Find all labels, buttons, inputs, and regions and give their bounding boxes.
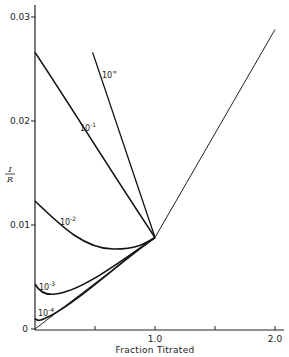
curve-ideal xyxy=(35,30,275,330)
label-10-inf: 10∞ xyxy=(102,68,117,80)
x-tick-label-2: 2.0 xyxy=(268,334,283,344)
x-axis-title: Fraction Titrated xyxy=(115,345,194,355)
svg-text:R: R xyxy=(6,175,13,184)
y-axis-title: I R xyxy=(5,165,15,184)
y-tick-label-0: 0 xyxy=(22,324,28,334)
label-10-minus-1: 10-1 xyxy=(80,121,96,133)
label-10-minus-3: 10-3 xyxy=(39,280,55,292)
label-10-minus-2: 10-2 xyxy=(60,215,76,227)
y-tick-label-1: 0.01 xyxy=(10,220,30,230)
svg-text:I: I xyxy=(7,165,12,174)
curve-10-minus-2 xyxy=(35,201,155,249)
curve-10-minus-1 xyxy=(35,52,155,237)
y-tick-label-2: 0.02 xyxy=(10,116,30,126)
titration-chart: 0 0.01 0.02 0.03 1.0 2.0 Fraction Titrat… xyxy=(0,0,289,357)
y-tick-label-3: 0.03 xyxy=(10,12,30,22)
curve-10-inf xyxy=(93,52,155,237)
x-tick-label-1: 1.0 xyxy=(148,334,163,344)
